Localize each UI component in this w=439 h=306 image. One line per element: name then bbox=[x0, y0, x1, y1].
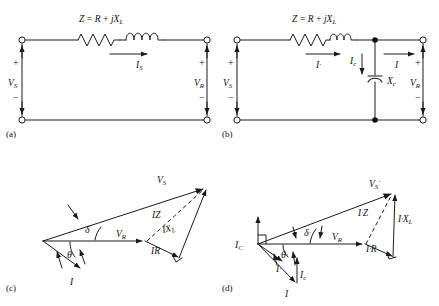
current-label-a: IS bbox=[135, 60, 143, 71]
angle-arc-delta-d bbox=[310, 229, 316, 243]
minus-sign-b-left: − bbox=[228, 92, 234, 103]
terminal-a-bottom-left bbox=[19, 117, 25, 123]
terminal-a-top-right bbox=[204, 37, 210, 43]
figure-svg: Z=R+jXL IS + − VS + − VR (a) Z=R+jXL I' … bbox=[0, 0, 439, 306]
panel-b-circuit bbox=[234, 34, 426, 123]
capacitor-plate-bottom bbox=[368, 78, 382, 82]
label-delta-prime-d: δ' bbox=[304, 227, 311, 238]
terminal-b-bottom-left bbox=[234, 117, 240, 123]
line-current-label-b: I' bbox=[315, 60, 321, 70]
terminal-b-top-left bbox=[234, 37, 240, 43]
panel-c-labels: VS VR I IZ IR IXL δ θ (c) bbox=[6, 175, 176, 293]
angle-arc-delta-c bbox=[95, 227, 101, 240]
inductor-a bbox=[126, 33, 164, 40]
label-delta-c: δ bbox=[85, 224, 90, 235]
label-vr-d: VR bbox=[332, 232, 343, 243]
panel-a-circuit bbox=[19, 33, 210, 123]
impedance-label-a: Z=R+jXL bbox=[79, 14, 123, 25]
terminal-b-top-right bbox=[420, 37, 426, 43]
panel-label-b: (b) bbox=[222, 129, 233, 139]
capacitor-label-b: Xc bbox=[386, 76, 396, 87]
load-current-label-b: I bbox=[394, 60, 399, 70]
phasor-ipz-d bbox=[366, 196, 391, 244]
panel-label-a: (a) bbox=[6, 129, 16, 139]
panel-label-c: (c) bbox=[6, 283, 16, 293]
plus-sign-a-right: + bbox=[199, 57, 205, 68]
terminal-a-bottom-right bbox=[204, 117, 210, 123]
label-ipr-d: I'R bbox=[365, 244, 377, 254]
label-vr-c: VR bbox=[116, 229, 127, 240]
cap-current-label-b: Ic bbox=[349, 56, 356, 67]
label-ipxl-d: I'XL bbox=[397, 214, 412, 225]
junction-dot-top bbox=[372, 37, 378, 43]
inductor-b bbox=[330, 34, 357, 40]
label-vs-c: VS bbox=[157, 175, 167, 186]
phasor-vs-prime-d bbox=[258, 194, 391, 244]
angle-pointer-theta2-d bbox=[293, 252, 295, 265]
minus-sign-b-right: − bbox=[415, 92, 421, 103]
label-ixl-c: IXL bbox=[160, 222, 176, 236]
resistor-b bbox=[290, 34, 330, 46]
panel-label-d: (d) bbox=[222, 283, 233, 293]
label-i-c: I bbox=[69, 277, 74, 287]
label-ipz-d: I'Z bbox=[357, 208, 369, 218]
impedance-label-b: Z=R+jXL bbox=[292, 14, 336, 25]
label-vs-prime-d: VS' bbox=[369, 179, 380, 190]
label-i-d: I bbox=[284, 289, 289, 299]
terminal-a-top-left bbox=[19, 37, 25, 43]
angle-pointer-delta-c bbox=[68, 205, 78, 219]
vs-label-b: VS bbox=[223, 78, 233, 89]
label-iz-c: IZ bbox=[151, 210, 161, 220]
phasor-ir-c bbox=[145, 241, 178, 257]
phasor-ixl-c bbox=[179, 190, 206, 258]
vs-label-a: VS bbox=[8, 78, 18, 89]
label-ir-c: IR bbox=[150, 246, 160, 256]
vr-label-a: VR bbox=[194, 78, 205, 89]
plus-sign-a-left: + bbox=[13, 57, 19, 68]
label-theta-c: θ bbox=[67, 249, 72, 260]
angle-pointer-theta2-c bbox=[80, 250, 85, 264]
plus-sign-b-right: + bbox=[415, 57, 421, 68]
plus-sign-b-left: + bbox=[228, 57, 234, 68]
label-ic-lower-d: Ic bbox=[299, 270, 306, 281]
vr-label-b: VR bbox=[410, 78, 421, 89]
figure-canvas: Z=R+jXL IS + − VS + − VR (a) Z=R+jXL I' … bbox=[0, 0, 439, 306]
angle-pointer-delta2-d bbox=[320, 226, 322, 238]
phasor-i-c bbox=[43, 241, 80, 268]
phasor-ipxl-d bbox=[393, 195, 395, 257]
terminal-b-bottom-right bbox=[420, 117, 426, 123]
label-theta-prime-d: θ' bbox=[281, 249, 288, 260]
phasor-i-prime-d bbox=[258, 244, 282, 261]
angle-pointer-delta-d bbox=[293, 227, 296, 238]
minus-sign-a-left: − bbox=[13, 92, 19, 103]
junction-dot-bottom bbox=[372, 117, 378, 123]
label-i-prime-d: I' bbox=[275, 264, 281, 274]
minus-sign-a-right: − bbox=[199, 92, 205, 103]
label-ic-upper-d: IC bbox=[234, 240, 243, 251]
resistor-a bbox=[78, 34, 120, 46]
